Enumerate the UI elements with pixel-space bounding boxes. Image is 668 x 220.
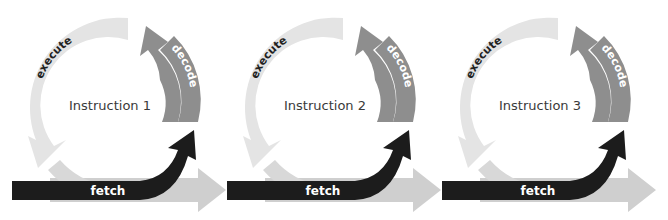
panel-instruction-3: Instruction 3 execute decode fetch (442, 18, 656, 212)
panel-instruction-2: Instruction 2 execute decode fetch (227, 18, 441, 212)
pipeline-diagram: Instruction 1 execute decode fetch Instr… (0, 0, 668, 220)
fetch-label: fetch (306, 184, 341, 198)
instruction-title: Instruction 2 (284, 98, 366, 113)
execute-arc (28, 18, 128, 168)
execute-label: execute (33, 34, 74, 81)
execute-arc (243, 18, 343, 168)
instruction-title: Instruction 3 (499, 98, 581, 113)
fetch-label: fetch (91, 184, 126, 198)
execute-label: execute (248, 34, 289, 81)
execute-label: execute (463, 34, 504, 81)
panel-instruction-1: Instruction 1 execute decode fetch (12, 18, 226, 212)
execute-arc (458, 18, 558, 168)
instruction-title: Instruction 1 (69, 98, 151, 113)
fetch-label: fetch (521, 184, 556, 198)
